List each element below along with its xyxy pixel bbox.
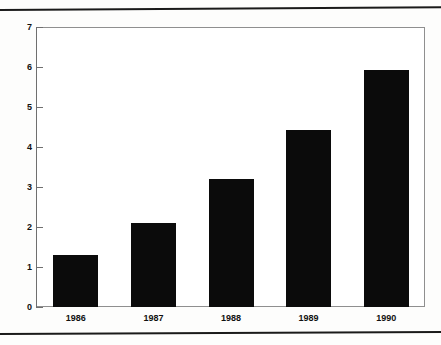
- x-tick-label: 1989: [279, 313, 339, 323]
- y-tick-label: 6: [6, 63, 32, 72]
- bar: [286, 130, 331, 307]
- y-tick-label: 2: [6, 223, 32, 232]
- page-rule-top: [0, 6, 441, 11]
- y-tick-label: 0: [6, 303, 32, 312]
- x-tick-label: 1988: [201, 313, 261, 323]
- page-rule-bottom: [0, 331, 441, 335]
- bars-group: [37, 27, 425, 307]
- bar: [53, 255, 98, 307]
- bar: [131, 223, 176, 307]
- y-tick-mark: [37, 307, 43, 308]
- y-tick-label: 1: [6, 263, 32, 272]
- bar: [209, 179, 254, 307]
- y-tick-label: 4: [6, 143, 32, 152]
- y-tick-label: 7: [6, 23, 32, 32]
- y-axis-labels: 01234567: [0, 0, 32, 345]
- x-tick-label: 1987: [123, 313, 183, 323]
- scanned-page: 01234567 19861987198819891990: [0, 0, 441, 345]
- y-tick-label: 3: [6, 183, 32, 192]
- x-tick-label: 1986: [46, 313, 106, 323]
- x-tick-label: 1990: [356, 313, 416, 323]
- y-tick-label: 5: [6, 103, 32, 112]
- bar: [364, 70, 409, 307]
